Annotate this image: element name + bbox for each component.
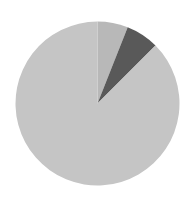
pie-slices: [15, 22, 179, 186]
pie-chart: [0, 0, 196, 197]
